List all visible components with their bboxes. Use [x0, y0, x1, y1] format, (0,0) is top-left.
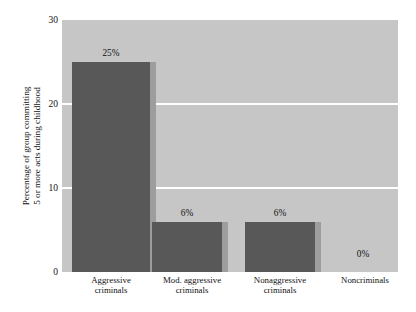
bar-mod-aggressive-criminals — [152, 222, 222, 272]
x-axis-ticks: Aggressive criminals Mod. aggressive cri… — [62, 275, 398, 309]
x-tick-line-2: criminals — [233, 285, 327, 295]
bar-chart-figure: Percentage of group committing 5 or more… — [0, 0, 416, 312]
y-tick-30: 30 — [36, 15, 58, 25]
y-axis-ticks: 30 20 10 0 — [34, 0, 58, 312]
bar-value-label-nonaggressive-criminals: 6% — [245, 208, 315, 218]
bar-value-label-mod-aggressive-criminals: 6% — [152, 208, 222, 218]
x-tick-nonaggressive-criminals: Nonaggressive criminals — [233, 275, 327, 295]
x-tick-noncriminals: Noncriminals — [318, 275, 412, 285]
x-tick-line-1: Aggressive — [64, 275, 158, 285]
x-tick-line-2: criminals — [64, 285, 158, 295]
bar-value-label-noncriminals: 0% — [328, 249, 398, 259]
x-tick-line-1: Nonaggressive — [233, 275, 327, 285]
y-tick-10: 10 — [36, 183, 58, 193]
x-tick-line-2: criminals — [145, 285, 239, 295]
x-tick-mod-aggressive-criminals: Mod. aggressive criminals — [145, 275, 239, 295]
bar-value-label-aggressive-criminals: 25% — [72, 48, 150, 58]
y-tick-0: 0 — [36, 267, 58, 277]
y-tick-20: 20 — [36, 99, 58, 109]
x-tick-line-1: Noncriminals — [318, 275, 412, 285]
bar-aggressive-criminals — [72, 62, 150, 272]
plot-area: 25% 6% 6% 0% — [62, 20, 398, 272]
x-tick-aggressive-criminals: Aggressive criminals — [64, 275, 158, 295]
y-axis-title-line-1: Percentage of group committing — [21, 87, 32, 206]
bar-nonaggressive-criminals — [245, 222, 315, 272]
x-tick-line-1: Mod. aggressive — [145, 275, 239, 285]
